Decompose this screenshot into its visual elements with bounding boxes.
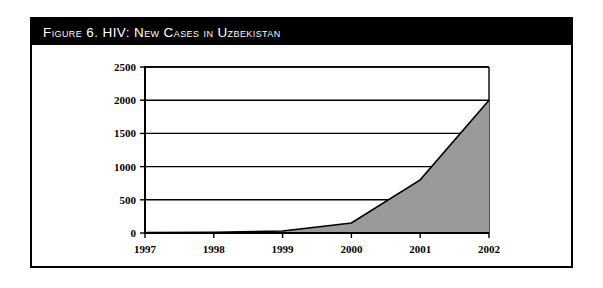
- figure-frame: Figure 6. HIV: New Cases in Uzbekistan 0…: [30, 17, 573, 268]
- area-chart: 0500100015002000250019971998199920002001…: [32, 45, 571, 266]
- x-tick-label: 2001: [409, 243, 431, 255]
- figure-title-bar: Figure 6. HIV: New Cases in Uzbekistan: [32, 19, 571, 45]
- y-tick-label: 2000: [114, 94, 137, 106]
- x-tick-label: 1998: [203, 243, 226, 255]
- y-tick-label: 500: [120, 194, 137, 206]
- chart-plot-area: 0500100015002000250019971998199920002001…: [32, 45, 571, 266]
- x-tick-label: 2002: [478, 243, 501, 255]
- y-tick-label: 1000: [114, 161, 137, 173]
- y-tick-label: 2500: [114, 61, 137, 73]
- figure-title: Figure 6. HIV: New Cases in Uzbekistan: [32, 25, 281, 40]
- x-tick-label: 1999: [272, 243, 295, 255]
- x-tick-label: 2000: [340, 243, 363, 255]
- x-tick-label: 1997: [134, 243, 157, 255]
- y-tick-label: 0: [131, 227, 137, 239]
- y-tick-label: 1500: [114, 127, 137, 139]
